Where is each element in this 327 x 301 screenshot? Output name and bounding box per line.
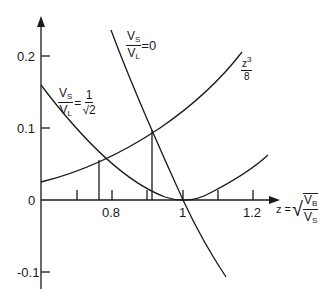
vsr2-eq: = xyxy=(74,97,81,109)
x-axis-label-lhs: z = xyxy=(276,204,291,215)
y-axis-arrow-icon xyxy=(37,16,45,27)
vs0-rhs: =0 xyxy=(141,39,156,52)
x-tick-label-1.2: 1.2 xyxy=(243,206,261,219)
x-label-den-sub: S xyxy=(312,216,317,225)
vs0-num: V xyxy=(127,29,135,43)
y-tick-label-0: 0 xyxy=(28,194,35,207)
curve-vs-vl-zero xyxy=(111,30,226,277)
vsr2-num-sub: S xyxy=(67,92,72,101)
label-vs-vl-one-over-root2: VS VL = 1 √2 xyxy=(58,87,96,118)
vs0-den-sub: L xyxy=(135,52,139,61)
vsr2-rhs-num: 1 xyxy=(85,89,94,103)
sqrt-icon: √ xyxy=(292,199,303,219)
chart-canvas xyxy=(0,0,327,301)
label-vs-vl-zero: VS VL =0 xyxy=(126,30,156,61)
y-tick-label-0.2: 0.2 xyxy=(17,50,35,63)
x-label-num: V xyxy=(304,193,312,207)
x-tick-label-1: 1 xyxy=(179,206,186,219)
vs0-num-sub: S xyxy=(135,35,140,44)
x-label-num-sub: B xyxy=(312,199,317,208)
vsr2-den-sub: L xyxy=(67,109,71,118)
y-tick-label-minus-0.1: -0.1 xyxy=(17,266,39,279)
z3-den: 8 xyxy=(244,71,250,82)
vsr2-rhs-den: √2 xyxy=(82,103,95,116)
label-z-cubed-over-8: z3 8 xyxy=(241,56,252,82)
vsr2-num: V xyxy=(59,86,67,100)
x-tick-label-0.8: 0.8 xyxy=(102,206,120,219)
y-tick-label-0.1: 0.1 xyxy=(17,122,35,135)
x-label-den: V xyxy=(304,210,312,224)
x-axis-label: z = √ VB VS xyxy=(276,193,318,225)
z3-sup: 3 xyxy=(247,55,251,64)
